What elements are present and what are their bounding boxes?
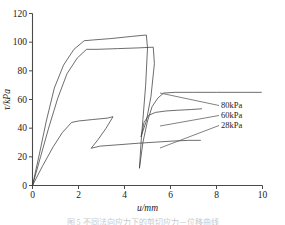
chart-figure: 0204060801001200246810u/mmτ/kPa80kPa60kP…	[0, 0, 285, 225]
x-tick-label: 0	[30, 190, 35, 200]
legend-label-80kpa: 80kPa	[221, 100, 242, 110]
y-tick-label: 0	[22, 181, 27, 191]
x-tick-label: 4	[122, 190, 127, 200]
legend-label-28kpa: 28kPa	[221, 120, 242, 130]
curve-60kpa	[33, 47, 202, 185]
y-tick-label: 40	[18, 123, 28, 133]
leader-line-60kpa	[160, 116, 219, 127]
y-tick-label: 120	[13, 9, 28, 19]
x-tick-label: 6	[168, 190, 173, 200]
x-tick-label: 10	[258, 190, 268, 200]
chart-text-labels: 0204060801001200246810u/mmτ/kPa80kPa60kP…	[2, 9, 268, 213]
y-tick-label: 20	[18, 152, 28, 162]
y-tick-label: 80	[18, 66, 28, 76]
curve-28kpa	[33, 117, 201, 186]
shear-stress-displacement-chart: 0204060801001200246810u/mmτ/kPa80kPa60kP…	[0, 0, 285, 225]
leader-line-28kpa	[160, 126, 219, 149]
leader-line-80kpa	[160, 93, 219, 106]
figure-caption: 图 5 不同法向应力下的剪切应力－位移曲线	[0, 216, 285, 225]
x-axis-title: u/mm	[137, 203, 158, 213]
y-tick-label: 100	[13, 37, 28, 47]
legend-label-60kpa: 60kPa	[221, 110, 242, 120]
x-tick-label: 2	[76, 190, 81, 200]
x-tick-label: 8	[214, 190, 219, 200]
legend-leader-lines	[160, 93, 219, 148]
y-tick-label: 60	[18, 95, 28, 105]
y-axis-title: τ/kPa	[2, 89, 12, 110]
